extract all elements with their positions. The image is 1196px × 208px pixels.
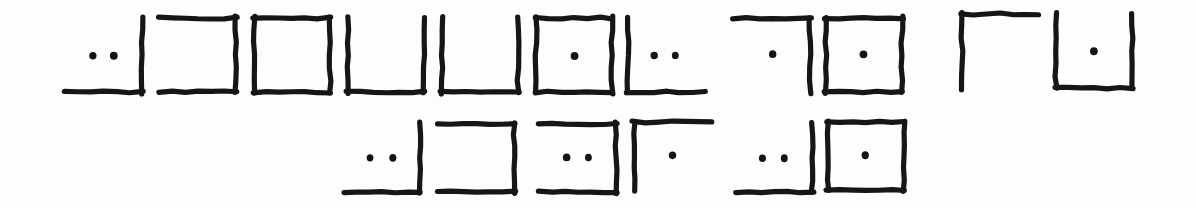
glyph-edge-left: [441, 17, 442, 94]
glyph-dot-2: [781, 154, 788, 162]
glyph-edge-right: [235, 16, 236, 92]
glyph-edge-left: [634, 122, 635, 191]
glyph-edge-left: [827, 121, 828, 190]
glyph-dot-1: [651, 52, 658, 60]
glyph-edge-right: [1132, 14, 1133, 89]
glyph-full-square-0dots: [250, 14, 334, 96]
glyph-full-square-1dot-r2: [824, 118, 908, 194]
glyph-bottom-right-2dots-r2b: [732, 120, 816, 196]
glyph-edge-top: [438, 124, 515, 125]
glyph-dot-1: [571, 52, 579, 60]
glyph-dot-1: [669, 152, 676, 160]
glyph-edge-right: [809, 18, 811, 94]
glyph-edge-bottom: [824, 91, 902, 92]
glyph-open-left-0dots-r2: [434, 120, 518, 196]
glyph-edge-bottom: [159, 91, 237, 92]
glyph-edge-left: [254, 16, 255, 92]
glyph-dot-2: [585, 154, 592, 162]
glyph-dot-1: [367, 154, 374, 161]
handwritten-glyph-sheet: [0, 0, 1196, 208]
glyph-edge-bottom: [346, 91, 425, 93]
glyph-edge-right: [141, 17, 143, 94]
glyph-u-shape-1dot: [1052, 10, 1136, 92]
glyph-edge-top: [535, 17, 612, 19]
glyph-edge-bottom: [538, 191, 617, 192]
glyph-edge-bottom: [437, 191, 515, 192]
glyph-full-square-1dot-a: [532, 14, 616, 96]
glyph-open-left-2dots-r2: [536, 120, 620, 196]
glyph-dot-1: [1090, 47, 1098, 55]
glyph-dot-1: [862, 151, 869, 159]
glyph-edge-right: [901, 16, 903, 92]
glyph-top-left-corner-0dots: [958, 10, 1042, 92]
glyph-edge-right: [615, 122, 617, 194]
glyph-bottom-right-2dots: [62, 14, 146, 96]
glyph-edge-bottom: [626, 91, 705, 93]
glyph-dot-1: [860, 50, 868, 58]
glyph-edge-bottom: [1055, 87, 1133, 89]
glyph-edge-top: [159, 17, 238, 19]
glyph-top-left-corner-1dot: [630, 118, 714, 194]
glyph-dot-2: [389, 154, 396, 162]
glyph-edge-bottom: [344, 192, 420, 193]
glyph-full-square-1dot-b: [822, 14, 906, 96]
glyph-edge-bottom: [736, 191, 814, 192]
glyph-edge-bottom: [826, 190, 904, 191]
glyph-edge-bottom: [253, 92, 330, 93]
glyph-edge-bottom: [440, 91, 519, 92]
glyph-edge-left: [347, 17, 348, 94]
glyph-edge-right: [513, 123, 515, 193]
glyph-edge-top: [733, 18, 812, 19]
glyph-edge-bottom: [535, 91, 612, 93]
glyph-edge-left: [825, 17, 827, 93]
glyph-edge-top: [961, 13, 1039, 15]
glyph-edge-top: [253, 17, 331, 19]
glyph-edge-right: [423, 18, 424, 93]
glyph-u-shape-0dots-a: [344, 14, 428, 96]
glyph-edge-top: [632, 121, 712, 123]
glyph-edge-left: [627, 17, 629, 92]
glyph-bottom-left-2dots: [624, 14, 708, 96]
glyph-dot-2: [110, 52, 118, 60]
glyph-edge-top: [827, 121, 904, 122]
glyph-dot-1: [563, 154, 571, 162]
glyph-edge-left: [961, 13, 963, 90]
glyph-edge-top: [824, 18, 903, 19]
glyph-edge-right: [611, 16, 613, 94]
glyph-dot-1: [759, 154, 766, 162]
glyph-edge-top: [538, 123, 617, 124]
glyph-dot-1: [769, 50, 776, 58]
glyph-u-shape-0dots-b: [438, 14, 522, 96]
glyph-edge-right: [517, 17, 519, 92]
glyph-edge-right: [903, 121, 905, 191]
glyph-edge-left: [1055, 13, 1057, 89]
glyph-edge-right: [811, 123, 813, 193]
glyph-dot-2: [672, 52, 679, 59]
glyph-open-left-0dots: [156, 14, 240, 96]
glyph-top-right-1dot: [730, 14, 814, 96]
glyph-dot-1: [89, 52, 96, 59]
glyph-edge-right: [419, 122, 420, 193]
glyph-edge-left: [535, 17, 537, 92]
glyph-edge-bottom: [64, 91, 143, 93]
glyph-bottom-right-2dots-r2: [340, 120, 424, 196]
glyph-edge-right: [329, 17, 331, 93]
